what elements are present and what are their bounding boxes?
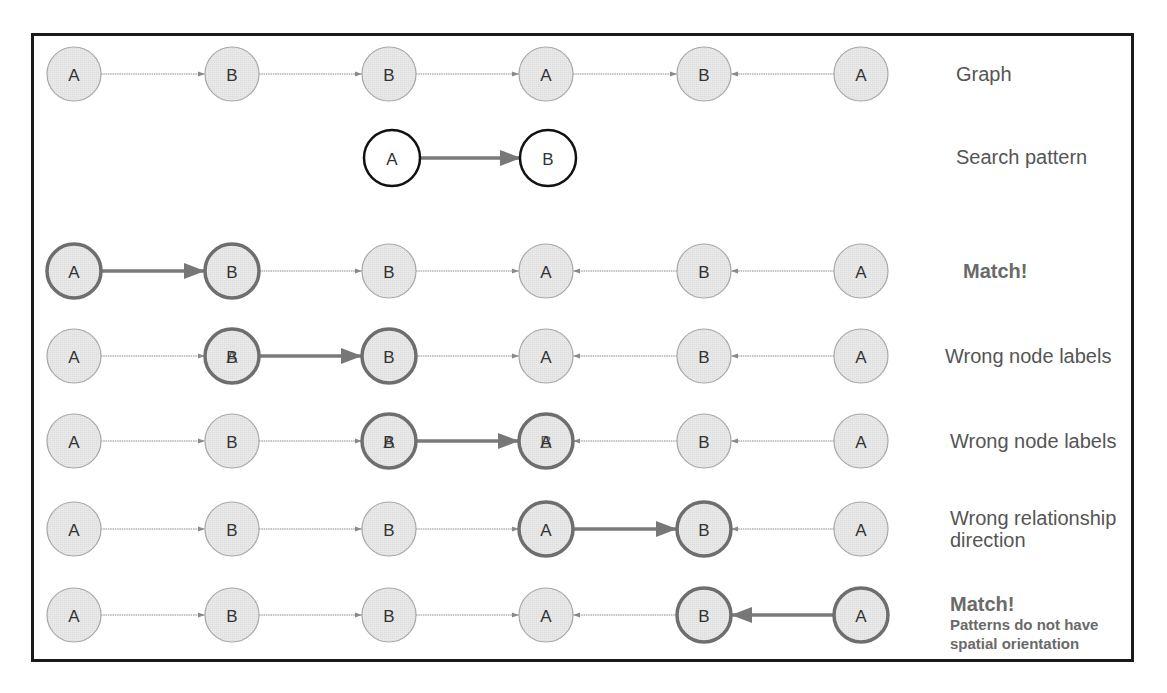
node-label: B — [383, 607, 394, 626]
node-label-overlay: A — [383, 433, 395, 452]
node-label: A — [540, 348, 552, 367]
matched-node-b: B — [205, 244, 259, 298]
node-label-overlay: A — [226, 348, 238, 367]
node-label: B — [226, 263, 237, 282]
row-label-text: Wrong relationship — [950, 507, 1116, 529]
node-a: A — [47, 329, 101, 383]
node-a: A — [834, 414, 888, 468]
node-b: B — [205, 414, 259, 468]
node-b: B — [677, 329, 731, 383]
row-label-text: Graph — [956, 63, 1012, 85]
node-label: B — [383, 521, 394, 540]
row-label-wrong-labels-2: Wrong node labels — [950, 430, 1116, 452]
node-b: B — [677, 244, 731, 298]
node-a: A — [519, 329, 573, 383]
node-label-overlay: B — [540, 433, 551, 452]
pattern-node-b: B — [520, 130, 576, 186]
row-label-wrong-labels-1: Wrong node labels — [945, 345, 1111, 367]
node-b: B — [205, 502, 259, 556]
node-label: B — [698, 433, 709, 452]
pattern-node-a: A — [364, 130, 420, 186]
matched-node-b: BA — [205, 329, 259, 383]
node-label: B — [383, 348, 394, 367]
row-label-search-pattern: Search pattern — [956, 146, 1087, 168]
node-label: A — [855, 433, 867, 452]
matched-node-b: B — [362, 329, 416, 383]
row-label-wrong-direction: Wrong relationshipdirection — [950, 507, 1116, 551]
node-a: A — [834, 244, 888, 298]
node-b: B — [677, 47, 731, 101]
row-label-graph: Graph — [956, 63, 1012, 85]
node-label: B — [383, 263, 394, 282]
node-label: A — [855, 66, 867, 85]
node-a: A — [519, 588, 573, 642]
node-label: A — [855, 263, 867, 282]
matched-node-b: B — [677, 502, 731, 556]
node-label: A — [540, 521, 552, 540]
node-label: B — [698, 348, 709, 367]
row-label-match-1: Match! — [963, 260, 1027, 282]
node-label: B — [383, 66, 394, 85]
node-label: A — [68, 263, 80, 282]
node-b: B — [677, 414, 731, 468]
node-label: B — [698, 607, 709, 626]
graph-row-wrong-direction: ABBABA — [47, 502, 888, 556]
node-label: A — [68, 348, 80, 367]
row-label-text: Match! — [963, 260, 1027, 282]
search-pattern: AB — [364, 130, 576, 186]
row-label-text: Match! — [950, 593, 1014, 615]
node-label: B — [698, 521, 709, 540]
node-label: A — [540, 66, 552, 85]
graph-row-graph: ABBABA — [47, 47, 888, 101]
node-label: A — [855, 607, 867, 626]
node-a: A — [519, 47, 573, 101]
matched-node-b: B — [677, 588, 731, 642]
row-label-subtext: direction — [950, 529, 1116, 551]
node-label: B — [226, 521, 237, 540]
node-a: A — [519, 244, 573, 298]
node-label: A — [68, 607, 80, 626]
node-b: B — [362, 502, 416, 556]
node-label: A — [386, 150, 398, 169]
node-label: A — [540, 263, 552, 282]
node-label: A — [855, 521, 867, 540]
matched-node-a: AB — [519, 414, 573, 468]
node-a: A — [834, 329, 888, 383]
row-label-text: Wrong node labels — [945, 345, 1111, 367]
row-label-text: Wrong node labels — [950, 430, 1116, 452]
graph-row-wrong-labels-2: ABBAABBA — [47, 414, 888, 468]
node-b: B — [205, 47, 259, 101]
node-a: A — [834, 502, 888, 556]
node-label: A — [68, 521, 80, 540]
graph-row-match-2: ABBABA — [47, 588, 888, 642]
matched-node-a: A — [834, 588, 888, 642]
node-a: A — [47, 414, 101, 468]
node-a: A — [47, 502, 101, 556]
node-label: A — [855, 348, 867, 367]
node-a: A — [47, 47, 101, 101]
node-label: B — [698, 263, 709, 282]
node-b: B — [362, 244, 416, 298]
node-label: A — [540, 607, 552, 626]
node-label: B — [226, 66, 237, 85]
graph-row-match-1: ABBABA — [47, 244, 888, 298]
node-label: B — [226, 433, 237, 452]
node-label: A — [68, 66, 80, 85]
node-label: B — [226, 607, 237, 626]
node-b: B — [362, 47, 416, 101]
matched-node-a: A — [47, 244, 101, 298]
node-b: B — [362, 588, 416, 642]
row-label-match-2: Match!Patterns do not havespatial orient… — [950, 593, 1098, 653]
row-label-subtext: Patterns do not havespatial orientation — [950, 615, 1098, 653]
matched-node-a: A — [519, 502, 573, 556]
graph-row-wrong-labels-1: ABABABA — [47, 329, 888, 383]
node-label: B — [698, 66, 709, 85]
node-label: B — [542, 150, 553, 169]
matched-node-b: BA — [362, 414, 416, 468]
node-a: A — [834, 47, 888, 101]
node-a: A — [47, 588, 101, 642]
node-label: A — [68, 433, 80, 452]
node-b: B — [205, 588, 259, 642]
